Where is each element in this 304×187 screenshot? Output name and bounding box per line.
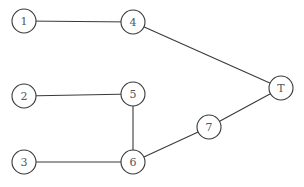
node-label: 7: [206, 121, 213, 134]
graph-diagram: 1234567T: [0, 0, 304, 187]
node-label: 4: [130, 16, 137, 29]
node-1: 1: [12, 9, 36, 33]
edge-2-5: [24, 94, 133, 96]
node-7: 7: [197, 115, 221, 139]
node-6: 6: [121, 150, 145, 174]
node-5: 5: [121, 82, 145, 106]
node-T: T: [269, 76, 293, 100]
node-4: 4: [121, 10, 145, 34]
node-label: 1: [21, 15, 28, 28]
node-label: T: [277, 82, 285, 95]
edge-6-7: [133, 127, 209, 162]
nodes: 1234567T: [12, 9, 293, 174]
node-label: 2: [21, 90, 28, 103]
edge-1-4: [24, 21, 133, 22]
edges: [24, 21, 281, 162]
node-label: 6: [130, 156, 137, 169]
node-2: 2: [12, 84, 36, 108]
node-3: 3: [12, 150, 36, 174]
node-label: 3: [21, 156, 28, 169]
edge-4-T: [133, 22, 281, 88]
node-label: 5: [130, 88, 137, 101]
